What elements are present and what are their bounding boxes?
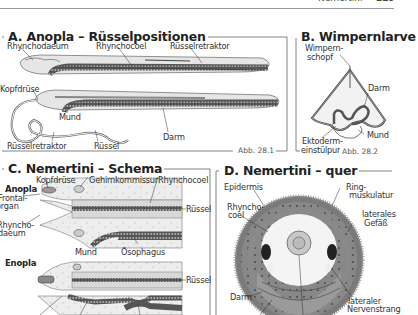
label-oesophagus: Ösophagus bbox=[121, 248, 165, 257]
figure-ref-28-1: Abb. 28.1 bbox=[236, 146, 276, 155]
anopla-worm-retracted bbox=[20, 55, 269, 75]
label-frontalorgan-2: organ bbox=[0, 202, 19, 211]
label-wimpernschopf-2: schopf bbox=[307, 53, 333, 62]
label-darm-d: Darm bbox=[230, 293, 252, 302]
panel-b-title: B. Wimpernlarve bbox=[299, 29, 418, 44]
anopla-schema bbox=[40, 178, 182, 248]
label-kopfdruese-a: Kopfdrüse bbox=[0, 85, 39, 94]
label-ruesselretraktor-bottom: Rüsselretraktor bbox=[7, 142, 67, 151]
figure-ref-28-2: Abb. 28.2 bbox=[340, 147, 380, 156]
label-laterales-gefaess-2: Gefäß bbox=[364, 219, 387, 228]
group-label-enopla: Enopla bbox=[5, 259, 36, 268]
enopla-schema bbox=[38, 262, 182, 315]
label-mund-c: Mund bbox=[75, 248, 97, 257]
label-kopfdruese-c: Kopfdrüse bbox=[36, 176, 75, 185]
label-darm-a: Darm bbox=[163, 133, 185, 142]
label-darm-b: Darm bbox=[368, 84, 390, 93]
label-rhynchodaeum-2: daeum bbox=[0, 229, 25, 238]
label-mund-a: Mund bbox=[59, 113, 81, 122]
label-epidermis: Epidermis bbox=[224, 183, 263, 192]
label-ruesselretraktor-top: Rüsselretraktor bbox=[170, 42, 230, 51]
panel-d-title: D. Nemertini – quer bbox=[222, 163, 359, 178]
label-lateraler-nervenstrang-2: Nervenstrang bbox=[347, 305, 400, 314]
label-rhynchocoel-c: Rhynchocoel bbox=[158, 176, 208, 185]
pilidium-larva bbox=[312, 55, 385, 138]
label-ruessel-a: Rüssel bbox=[94, 142, 119, 151]
label-ringmuskulatur-2: muskulatur bbox=[349, 191, 393, 200]
panel-c-title: C. Nemertini – Schema bbox=[6, 161, 164, 176]
label-ruessel-c-top: Rüssel bbox=[186, 205, 211, 214]
label-gehirnkommissur: Gehirnkommissur bbox=[89, 176, 158, 185]
label-rhynchodaeum: Rhynchodaeum bbox=[7, 42, 69, 51]
label-mund-b: Mund bbox=[367, 131, 389, 140]
label-ruessel-c-bottom: Rüssel bbox=[186, 276, 211, 285]
anopla-worm-everted bbox=[12, 90, 279, 143]
label-rhynchocoel-d-2: coel bbox=[228, 211, 244, 220]
label-rhynchocoel-a: Rhynchocoel bbox=[96, 42, 146, 51]
